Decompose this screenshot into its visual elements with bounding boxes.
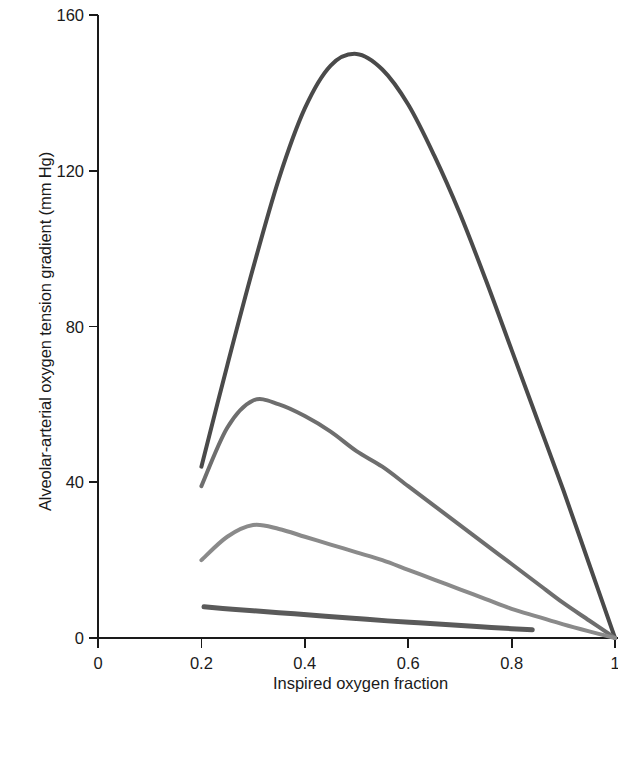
plot-area: 04080120160 00.20.40.60.81 Alveolar-arte… — [0, 0, 618, 700]
x-axis-tick-label: 0.8 — [500, 654, 523, 673]
x-axis-tick-label: 0 — [93, 654, 102, 673]
x-axis-title: Inspired oxygen fraction — [98, 674, 618, 693]
series-line-minimal — [204, 607, 532, 630]
x-axis-tick-label: 0.4 — [293, 654, 316, 673]
legend: VA/Q inequality SevereMildModerateMinima… — [0, 702, 618, 778]
figure-chart: 04080120160 00.20.40.60.81 Alveolar-arte… — [0, 0, 618, 778]
y-axis-title: Alveolar-arterial oxygen tension gradien… — [36, 32, 55, 632]
x-axis-tick-label: 0.2 — [190, 654, 213, 673]
series-line-moderate — [201, 399, 615, 638]
y-axis-tick-label: 160 — [20, 6, 84, 25]
x-axis-tick-label: 1 — [610, 654, 618, 673]
x-axis-tick-label: 0.6 — [397, 654, 420, 673]
data-curves — [201, 54, 615, 638]
plot-canvas — [0, 0, 618, 700]
series-line-severe — [201, 54, 615, 638]
